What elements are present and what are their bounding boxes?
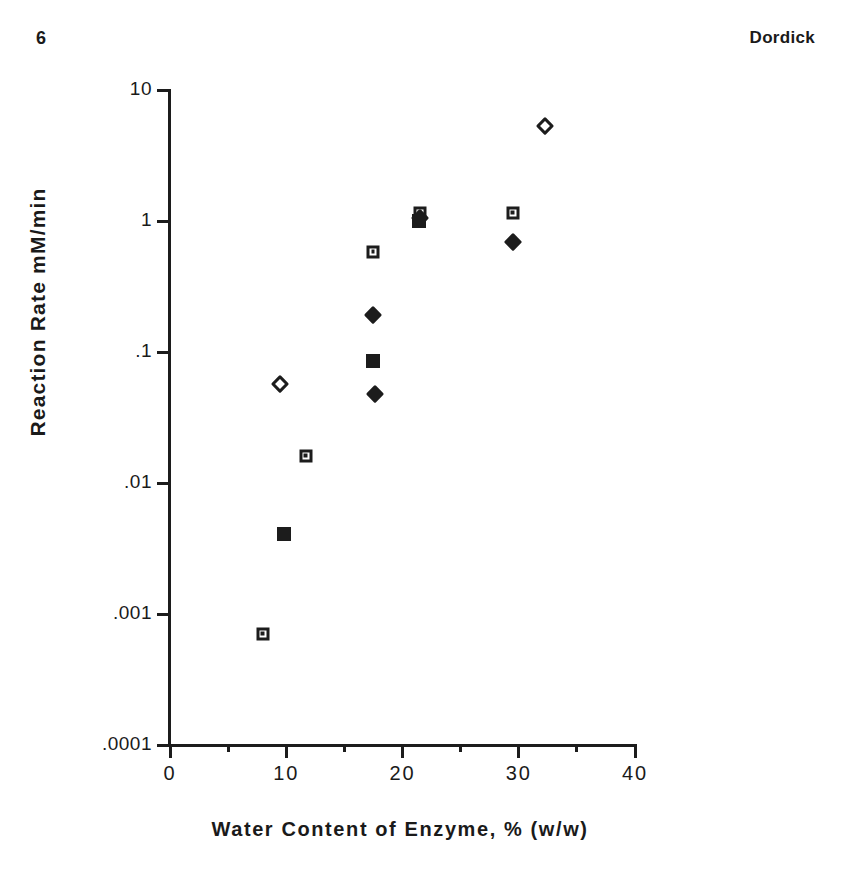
x-tick-6 [517,744,520,758]
y-tick-label-wrap-2: .1 [60,340,152,362]
data-point-open-diamond-1 [536,117,554,135]
x-tick-2 [285,744,288,758]
x-axis-title: Water Content of Enzyme, % (w/w) [0,818,800,841]
y-tick-4 [157,613,169,616]
figure-scatter-plot: 101.1.01.001.0001 010203040 Reaction Rat… [0,0,851,872]
y-tick-label-2: .1 [135,340,152,362]
data-point-filled-diamond-3 [504,233,522,251]
x-tick-3 [343,744,346,752]
data-point-open-diamond-0 [271,375,289,393]
y-tick-label-0: 10 [130,78,152,100]
y-tick-label-1: 1 [141,209,152,231]
data-point-filled-square-0 [277,527,291,541]
y-tick-label-wrap-5: .0001 [60,733,152,755]
x-tick-8 [634,744,637,758]
y-tick-1 [157,220,169,223]
y-tick-label-wrap-0: 10 [60,78,152,100]
y-tick-0 [157,89,169,92]
y-tick-label-wrap-3: .01 [60,471,152,493]
y-tick-label-3: .01 [124,471,152,493]
y-tick-label-wrap-4: .001 [60,602,152,624]
y-tick-5 [157,744,169,747]
x-tick-5 [459,744,462,752]
data-point-open-square-4 [506,207,519,220]
x-tick-0 [169,744,172,758]
x-tick-4 [401,744,404,758]
data-point-open-square-2 [367,245,380,258]
data-point-filled-diamond-1 [365,385,383,403]
plot-area [170,90,635,745]
y-tick-label-5: .0001 [102,733,152,755]
y-tick-3 [157,482,169,485]
x-tick-7 [575,744,578,752]
x-tick-label-6: 30 [489,762,549,785]
x-tick-label-2: 10 [256,762,316,785]
data-point-filled-diamond-0 [364,306,382,324]
x-tick-label-0: 0 [140,762,200,785]
x-tick-1 [227,744,230,752]
y-tick-label-wrap-1: 1 [60,209,152,231]
y-tick-label-4: .001 [113,602,152,624]
y-tick-2 [157,351,169,354]
data-point-filled-square-1 [366,354,380,368]
x-tick-label-4: 20 [373,762,433,785]
data-point-open-square-1 [300,450,313,463]
data-point-open-square-0 [257,628,270,641]
y-axis-title: Reaction Rate mM/min [26,112,50,512]
x-tick-label-8: 40 [605,762,665,785]
